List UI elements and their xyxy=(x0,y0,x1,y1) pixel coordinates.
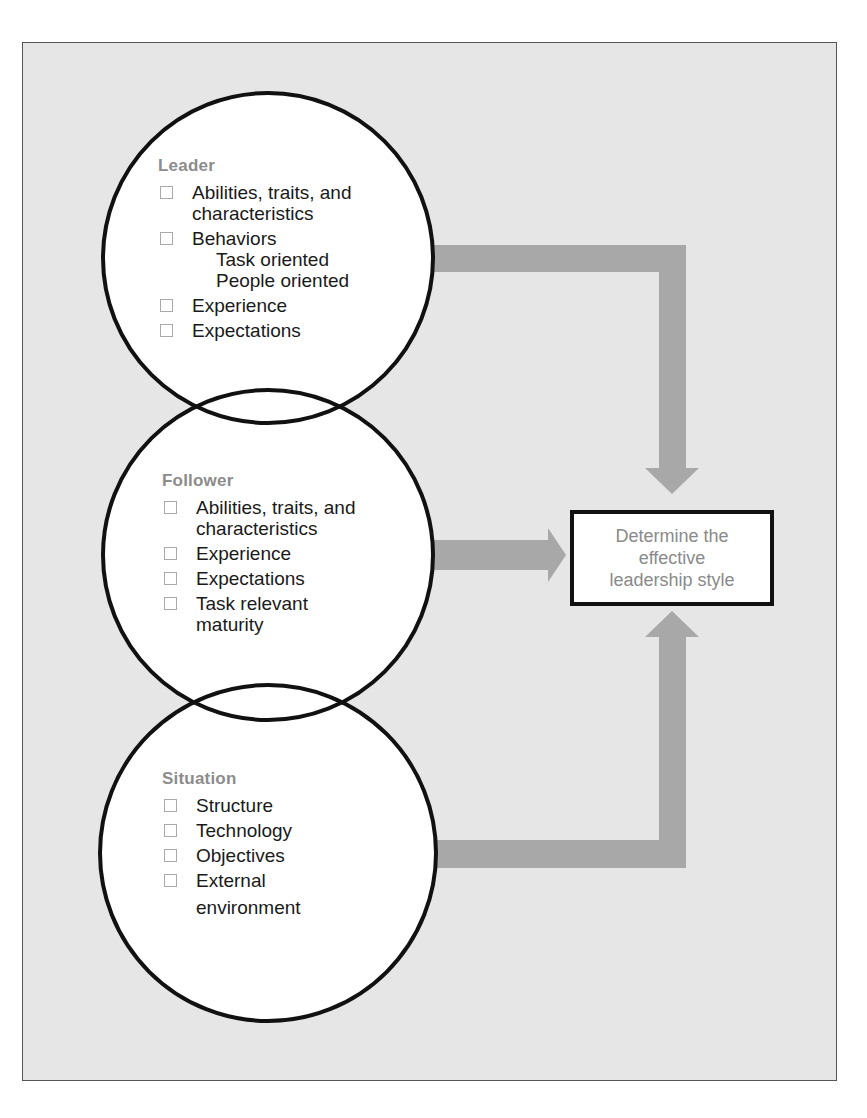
checkbox-square-icon xyxy=(164,501,177,514)
list-item: Objectives xyxy=(162,845,301,866)
result-box: Determine the effective leadership style xyxy=(570,510,774,606)
leader-title: Leader xyxy=(158,155,351,176)
follower-title: Follower xyxy=(162,470,355,491)
result-text: Determine the effective leadership style xyxy=(609,525,734,591)
list-item: Behaviors Task oriented People oriented xyxy=(158,228,351,291)
checkbox-square-icon xyxy=(160,232,173,245)
list-item: Abilities, traits, and characteristics xyxy=(162,497,355,539)
checkbox-square-icon xyxy=(160,186,173,199)
checkbox-square-icon xyxy=(160,324,173,337)
checkbox-square-icon xyxy=(164,597,177,610)
sub-item: Task oriented xyxy=(192,249,351,270)
checkbox-square-icon xyxy=(164,874,177,887)
list-item: Technology xyxy=(162,820,301,841)
follower-arrow xyxy=(430,528,566,582)
list-item: Experience xyxy=(162,543,355,564)
list-item: Expectations xyxy=(162,568,355,589)
list-item: Task relevant maturity xyxy=(162,593,355,635)
list-item: External environment xyxy=(162,870,301,918)
list-item: Expectations xyxy=(158,320,351,341)
checkbox-square-icon xyxy=(164,799,177,812)
list-item: Experience xyxy=(158,295,351,316)
checkbox-square-icon xyxy=(164,572,177,585)
checkbox-square-icon xyxy=(164,547,177,560)
situation-arrow xyxy=(432,611,699,868)
checkbox-square-icon xyxy=(160,299,173,312)
leader-group: Leader Abilities, traits, and characteri… xyxy=(158,155,351,345)
situation-title: Situation xyxy=(162,768,301,789)
leader-arrow xyxy=(432,245,699,494)
follower-group: Follower Abilities, traits, and characte… xyxy=(162,470,355,639)
sub-item: People oriented xyxy=(192,270,351,291)
list-item: Abilities, traits, and characteristics xyxy=(158,182,351,224)
checkbox-square-icon xyxy=(164,849,177,862)
list-item: Structure xyxy=(162,795,301,816)
situation-group: Situation Structure Technology Objective… xyxy=(162,768,301,922)
checkbox-square-icon xyxy=(164,824,177,837)
